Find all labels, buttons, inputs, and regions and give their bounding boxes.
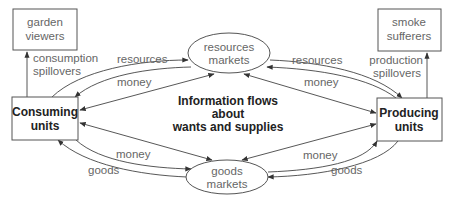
center-text-line-1: Information flows (178, 94, 278, 108)
center-info-text: Information flows about wants and suppli… (172, 94, 284, 134)
consuming-units-label-1: Consuming (12, 105, 78, 119)
left-resources-label: resources (117, 53, 168, 65)
circular-flow-diagram: garden viewers smoke sufferers Consuming… (0, 0, 454, 205)
consuming-units-label-2: units (31, 119, 60, 133)
producing-units-node: Producing units (377, 98, 442, 141)
garden-viewers-label-1: garden (27, 16, 63, 28)
garden-viewers-label-2: viewers (26, 30, 65, 42)
goods-markets-node: goods markets (186, 160, 268, 194)
smoke-sufferers-label-2: sufferers (387, 30, 432, 42)
left-money-top-label: money (117, 76, 152, 88)
smoke-sufferers-label-1: smoke (392, 16, 426, 28)
goods-markets-label-1: goods (211, 165, 243, 177)
consuming-units-node: Consuming units (12, 97, 78, 140)
left-goods-label: goods (88, 164, 120, 176)
consumption-spillovers-label-1: consumption (33, 52, 98, 64)
goods-markets-label-2: markets (207, 178, 248, 190)
production-spillovers-label-2: spillovers (373, 67, 421, 79)
smoke-sufferers-node: smoke sufferers (378, 9, 441, 51)
producing-units-label-2: units (395, 120, 424, 134)
right-money-top-label: money (304, 76, 339, 88)
right-goods-label: goods (331, 164, 363, 176)
resources-markets-label-2: markets (209, 54, 250, 66)
center-text-line-3: wants and supplies (172, 120, 284, 134)
garden-viewers-node: garden viewers (13, 9, 77, 50)
center-text-line-2: about (212, 107, 245, 121)
production-spillovers-label-1: production (369, 54, 423, 66)
right-money-bottom-label: money (303, 149, 338, 161)
producing-units-label-1: Producing (379, 106, 438, 120)
resources-markets-node: resources markets (188, 33, 270, 73)
left-money-bottom-label: money (116, 148, 151, 160)
consumption-spillovers-label-2: spillovers (33, 65, 81, 77)
right-resources-label: resources (292, 54, 343, 66)
resources-markets-label-1: resources (204, 41, 255, 53)
